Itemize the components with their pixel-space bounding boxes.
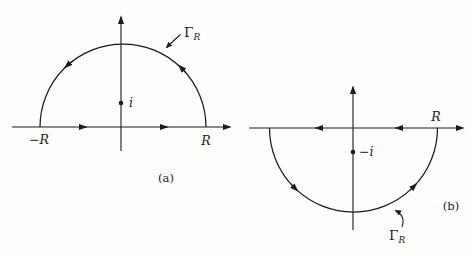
- gamma-leader-arrow-b: [396, 211, 404, 228]
- arc-direction-arrow-a-right: [179, 66, 186, 73]
- gamma-subscript-a: R: [192, 32, 200, 42]
- arc-direction-arrow-a-upperleft: [65, 61, 73, 68]
- arc-direction-arrow-b-lowerleft: [291, 184, 297, 190]
- gamma-subscript-b: R: [397, 235, 405, 245]
- diagram-b: −i R ΓR (b): [249, 87, 463, 245]
- pole-dot-i: [119, 101, 124, 106]
- textbook-figure: i −R R ΓR (a) −i R: [0, 0, 472, 256]
- r-label-b: R: [430, 109, 440, 124]
- caption-a: (a): [158, 171, 174, 185]
- semicircle-arc-a: [40, 44, 206, 127]
- arc-direction-arrow-b-lowerright: [410, 184, 416, 190]
- pole-label-i: i: [129, 95, 133, 110]
- contour-label-a: ΓR: [184, 24, 200, 42]
- r-label-a: R: [200, 133, 210, 148]
- gamma-glyph-a: Γ: [184, 24, 193, 40]
- gamma-leader-arrow-a: [167, 35, 181, 48]
- contour-diagrams-svg: i −R R ΓR (a) −i R: [0, 0, 472, 256]
- caption-b: (b): [443, 199, 459, 213]
- diagram-a: i −R R ΓR (a): [12, 17, 230, 185]
- pole-dot-minus-i: [351, 150, 356, 155]
- minus-r-label-a: −R: [29, 132, 49, 147]
- pole-label-minus-i: −i: [359, 144, 373, 159]
- contour-label-b: ΓR: [389, 227, 405, 245]
- gamma-glyph-b: Γ: [389, 227, 398, 243]
